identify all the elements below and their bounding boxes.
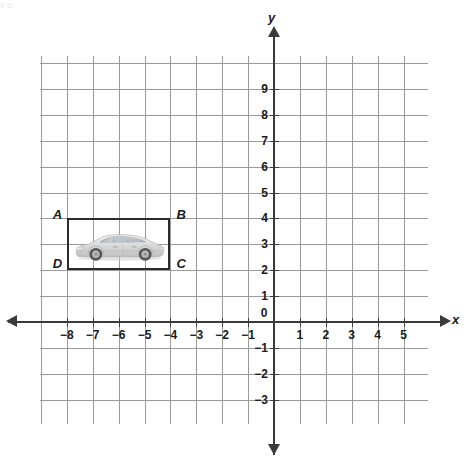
y-tick-label: 6	[246, 160, 268, 174]
y-tick-label: 4	[246, 211, 268, 225]
gridline-horizontal	[40, 167, 428, 168]
gridline-horizontal	[40, 89, 428, 90]
gridline-horizontal	[40, 374, 428, 375]
gridline-horizontal	[40, 193, 428, 194]
gridline-vertical	[300, 56, 301, 424]
x-tick-mark	[352, 318, 353, 327]
gridline-horizontal	[40, 270, 428, 271]
x-tick-mark	[404, 318, 405, 327]
x-tick-mark	[145, 318, 146, 327]
y-tick-mark	[270, 296, 279, 297]
y-tick-mark	[270, 374, 279, 375]
y-tick-mark	[270, 244, 279, 245]
x-tick-label: −3	[183, 328, 209, 342]
rectangle-abcd	[67, 218, 171, 270]
gridline-horizontal	[40, 348, 428, 349]
gridline-vertical	[170, 56, 171, 424]
x-tick-label: 1	[287, 328, 313, 342]
vertex-label-d: D	[53, 256, 62, 271]
x-tick-mark	[196, 318, 197, 327]
gridline-vertical	[378, 56, 379, 424]
y-tick-label: −2	[246, 367, 268, 381]
y-tick-mark	[270, 141, 279, 142]
y-tick-label: −3	[246, 393, 268, 407]
x-tick-label: −2	[209, 328, 235, 342]
y-tick-mark	[270, 193, 279, 194]
x-axis-arrow-left-icon	[6, 315, 17, 327]
x-axis-label: x	[452, 312, 459, 327]
x-tick-mark	[93, 318, 94, 327]
y-tick-label: 9	[246, 82, 268, 96]
gridline-horizontal	[40, 400, 428, 401]
y-tick-label: 5	[246, 186, 268, 200]
y-tick-mark	[270, 89, 279, 90]
x-tick-label: −7	[80, 328, 106, 342]
gridline-horizontal	[40, 115, 428, 116]
y-tick-label: 7	[246, 134, 268, 148]
gridline-vertical	[196, 56, 197, 424]
y-axis-label: y	[268, 10, 275, 25]
x-tick-label: 2	[313, 328, 339, 342]
y-axis-arrow-down-icon	[268, 444, 280, 455]
gridline-horizontal	[40, 63, 428, 64]
y-tick-label: 2	[246, 263, 268, 277]
x-tick-mark	[170, 318, 171, 327]
y-tick-mark	[270, 115, 279, 116]
x-tick-label: −1	[235, 328, 261, 342]
x-axis-arrow-right-icon	[440, 315, 451, 327]
x-tick-label: −6	[106, 328, 132, 342]
x-tick-mark	[326, 318, 327, 327]
y-tick-mark	[270, 167, 279, 168]
origin-label: 0	[258, 306, 270, 320]
x-tick-label: 3	[339, 328, 365, 342]
gridline-vertical	[404, 56, 405, 424]
gridline-vertical	[352, 56, 353, 424]
gridline-horizontal	[40, 296, 428, 297]
x-tick-mark	[378, 318, 379, 327]
y-tick-label: 8	[246, 108, 268, 122]
gridline-vertical	[41, 56, 42, 424]
vertex-label-c: C	[176, 256, 185, 271]
x-tick-label: −5	[132, 328, 158, 342]
y-tick-label: 3	[246, 237, 268, 251]
gridline-vertical	[222, 56, 223, 424]
gridline-horizontal	[40, 141, 428, 142]
x-tick-mark	[248, 318, 249, 327]
gridline-vertical	[326, 56, 327, 424]
y-tick-mark	[270, 400, 279, 401]
x-tick-label: −8	[54, 328, 80, 342]
y-tick-mark	[270, 218, 279, 219]
x-tick-label: 4	[365, 328, 391, 342]
y-tick-mark	[270, 270, 279, 271]
x-tick-mark	[300, 318, 301, 327]
x-tick-label: −4	[157, 328, 183, 342]
x-tick-mark	[119, 318, 120, 327]
x-tick-label: 5	[391, 328, 417, 342]
x-axis	[8, 321, 448, 323]
x-tick-mark	[67, 318, 68, 327]
vertex-label-b: B	[176, 207, 185, 222]
x-tick-mark	[222, 318, 223, 327]
y-tick-label: −1	[246, 341, 268, 355]
y-tick-label: 1	[246, 289, 268, 303]
cropped-header-text: y p	[0, 0, 473, 8]
y-axis	[273, 28, 275, 455]
coordinate-plane-figure: y p x y −8−7−6−5−4−3−2−112345987654321−1…	[0, 0, 473, 467]
y-axis-arrow-up-icon	[268, 26, 280, 37]
vertex-label-a: A	[53, 207, 62, 222]
y-tick-mark	[270, 348, 279, 349]
